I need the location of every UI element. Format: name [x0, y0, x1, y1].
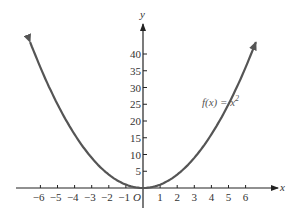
- y-tick-label: 25: [130, 98, 142, 110]
- x-tick-label: −1: [118, 191, 130, 203]
- y-tick-label: 5: [136, 165, 142, 177]
- y-tick-label: 15: [130, 132, 142, 144]
- parabola-chart: −6−5−4−3−2−1123456 510152025303540 x y O…: [0, 0, 292, 219]
- x-tick-label: −5: [50, 191, 62, 203]
- y-tick-label: 30: [130, 82, 142, 94]
- y-axis-label: y: [139, 8, 145, 20]
- y-tick-label: 10: [130, 149, 142, 161]
- x-tick-label: −3: [84, 191, 96, 203]
- y-tick-label: 20: [130, 115, 142, 127]
- x-tick-label: −2: [101, 191, 113, 203]
- y-axis-ticks: 510152025303540: [130, 48, 147, 177]
- x-tick-label: 1: [157, 191, 163, 203]
- x-tick-label: −6: [33, 191, 45, 203]
- x-tick-label: 5: [226, 191, 232, 203]
- function-label-base: f(x) = x: [202, 96, 235, 109]
- x-tick-label: 6: [243, 191, 249, 203]
- y-tick-label: 40: [130, 48, 142, 60]
- x-tick-label: 4: [209, 191, 215, 203]
- y-tick-label: 35: [130, 65, 142, 77]
- x-tick-label: −4: [67, 191, 79, 203]
- x-tick-label: 2: [174, 191, 180, 203]
- function-label: f(x) = x2: [202, 94, 239, 109]
- function-label-exponent: 2: [235, 94, 239, 103]
- x-axis-label: x: [279, 181, 285, 193]
- origin-label: O: [133, 191, 141, 203]
- x-tick-label: 3: [192, 191, 198, 203]
